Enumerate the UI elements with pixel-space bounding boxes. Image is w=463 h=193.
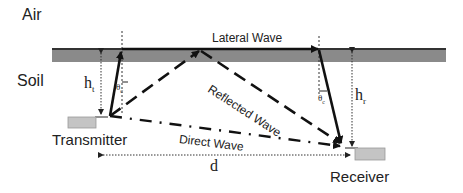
air-label: Air <box>22 6 42 24</box>
transmitter-box <box>68 117 96 128</box>
receiver-label: Receiver <box>330 168 389 185</box>
ht-label: ht <box>84 74 95 94</box>
theta-transmitter-label: θc <box>116 82 123 94</box>
theta-receiver-label: θc <box>318 93 325 105</box>
soil-label: Soil <box>17 72 44 90</box>
receiver-box <box>355 148 385 160</box>
diagram-root: Air Soil Lateral Wave Reflected Wave Dir… <box>0 0 463 193</box>
distance-label: d <box>210 157 218 175</box>
transmitter-label: Transmitter <box>52 131 127 148</box>
hr-label: hr <box>355 86 366 106</box>
lateral-wave-label: Lateral Wave <box>212 31 282 45</box>
